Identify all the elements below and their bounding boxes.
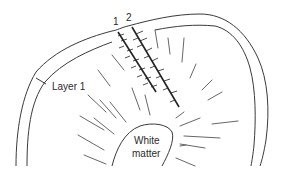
white-matter-label-line1: White: [134, 136, 160, 146]
track-2-label: 2: [126, 13, 132, 23]
white-matter-label-line2: matter: [132, 149, 160, 159]
electrode-track-1: [118, 32, 157, 92]
cortex-diagram: 1 2 Layer 1 White matter: [0, 0, 283, 179]
layer-1-label: Layer 1: [52, 82, 85, 92]
track-1-label: 1: [113, 17, 119, 27]
layer-1-inner-boundary-right: [155, 25, 255, 166]
electrode-track-2: [132, 27, 179, 107]
layer-1-pointer: [36, 78, 46, 84]
